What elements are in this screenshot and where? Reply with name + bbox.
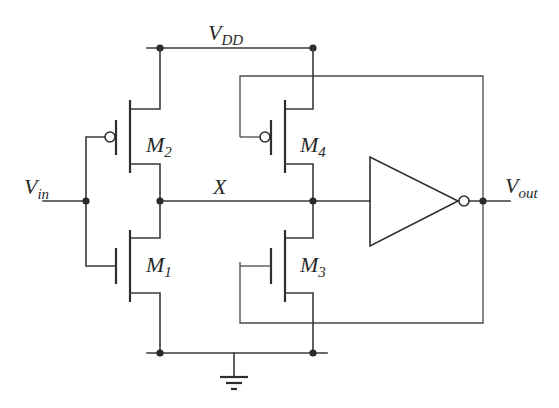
m1-label: M1 (145, 252, 172, 280)
transistor-m3 (240, 201, 313, 353)
m4-label: M4 (299, 132, 326, 160)
ground-rail (147, 349, 327, 356)
x-label: X (212, 174, 228, 199)
circuit-diagram: VDD M2 M1 M4 M3 (0, 0, 559, 408)
x-node-left (156, 197, 163, 204)
node-x-wire (156, 197, 370, 204)
vdd-label: VDD (208, 20, 243, 48)
inverter-bubble-icon (459, 196, 469, 206)
transistor-m2 (86, 48, 160, 201)
ground-icon (220, 353, 248, 389)
vin-label: Vin (24, 174, 49, 202)
schematic-svg: VDD M2 M1 M4 M3 (0, 0, 559, 408)
vout-node (479, 197, 486, 204)
transistor-m4 (240, 48, 313, 201)
x-node-right (309, 197, 316, 204)
m3-label: M3 (299, 252, 326, 280)
m2-label: M2 (145, 132, 172, 160)
transistor-m1 (86, 201, 160, 353)
vout-label: Vout (505, 173, 538, 201)
gnd-node-left (156, 349, 163, 356)
gnd-node-right (309, 349, 316, 356)
vin-node (82, 197, 89, 204)
feedback-loop-wire (240, 76, 483, 323)
pmos-bubble-icon (105, 132, 115, 142)
inverter-icon (370, 157, 510, 246)
pmos-bubble-icon (260, 132, 270, 142)
vin-input-wire (43, 197, 90, 204)
